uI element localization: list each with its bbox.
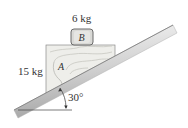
incline-angle-label: 30° (68, 91, 83, 103)
diagram-canvas: 6 kg B 15 kg A 30° (0, 0, 188, 128)
block-b-mass-label: 6 kg (72, 12, 92, 24)
block-a-letter: A (57, 61, 65, 72)
arrowhead-bottom-icon (64, 106, 67, 110)
block-b-letter: B (79, 32, 85, 43)
block-a-mass-label: 15 kg (18, 65, 43, 77)
